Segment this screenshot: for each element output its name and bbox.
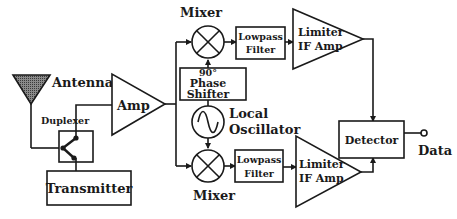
lowpass-filter-bottom-label-1: Lowpass <box>237 154 282 165</box>
antenna-icon <box>13 75 50 148</box>
transmitter-label: Transmitter <box>46 181 133 196</box>
antenna-label: Antenna <box>51 75 114 90</box>
local-oscillator-label-1: Local <box>229 106 268 121</box>
detector-label: Detector <box>345 134 399 147</box>
block-diagram: Antenna Duplexer Transmitter Amp Mixer 9… <box>0 0 457 219</box>
lowpass-filter-top-label-2: Filter <box>246 44 276 55</box>
lowpass-filter-bottom-label-2: Filter <box>244 168 274 179</box>
data-label: Data <box>418 143 453 158</box>
limiter-bottom-label-2: IF Amp <box>299 172 344 185</box>
wire-limiter-bottom-detector <box>361 158 373 172</box>
limiter-if-amp-top-triangle <box>293 9 363 69</box>
limiter-bottom-label-1: Limiter <box>299 158 345 171</box>
mixer-bottom-icon <box>192 150 224 182</box>
lowpass-filter-top-label-1: Lowpass <box>238 31 283 42</box>
mixer-bottom-label: Mixer <box>193 188 235 203</box>
local-oscillator-icon <box>192 106 224 138</box>
phase-shifter-label-3: Shifter <box>187 88 230 101</box>
local-oscillator-label-2: Oscillator <box>229 122 300 137</box>
amp-label: Amp <box>116 98 150 113</box>
data-terminal-icon <box>421 130 427 136</box>
limiter-top-label-1: Limiter <box>298 26 344 39</box>
mixer-top-label: Mixer <box>180 5 222 20</box>
duplexer-label: Duplexer <box>41 115 90 126</box>
limiter-top-label-2: IF Amp <box>298 40 343 53</box>
mixer-top-icon <box>192 26 224 58</box>
wire-limiter-top-detector <box>363 39 373 121</box>
